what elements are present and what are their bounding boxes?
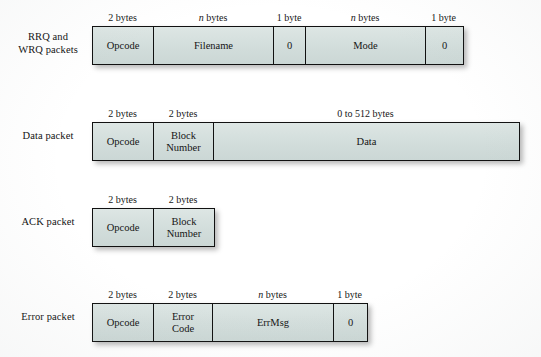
caption-suffix: bytes [174,108,198,119]
field-label-error-packet-error-code: Error Code [170,311,196,334]
size-caption-error-packet-zero-terminator: 1 byte [333,289,366,301]
size-caption-data-packet-opcode: 2 bytes [92,108,153,120]
caption-suffix: bytes [113,194,137,205]
caption-suffix: byte [342,289,362,300]
field-label-error-packet-errmsg: ErrMsg [255,317,291,329]
field-data-packet-opcode: Opcode [93,123,154,160]
size-caption-error-packet-error-code: 2 bytes [153,289,212,301]
field-rrq-wrq-packets-zero-terminator-1: 0 [274,27,306,64]
caption-suffix: bytes [113,12,137,23]
field-rrq-wrq-packets-mode: Mode [306,27,426,64]
field-label-ack-packet-block-number: Block Number [165,216,203,239]
field-label-data-packet-data: Data [355,136,379,148]
field-label-rrq-wrq-packets-zero-terminator-2: 0 [440,40,449,52]
caption-suffix: bytes [356,12,380,23]
field-error-packet-error-code: Error Code [154,304,213,341]
field-error-packet-zero-terminator: 0 [334,304,367,341]
field-ack-packet-opcode: Opcode [93,209,154,246]
size-caption-rrq-wrq-packets-zero-terminator-1: 1 byte [273,12,305,24]
size-caption-rrq-wrq-packets-opcode: 2 bytes [92,12,153,24]
field-error-packet-opcode: Opcode [93,304,154,341]
caption-prefix: 0 to 512 [337,108,370,119]
packet-fields-data-packet: OpcodeBlock NumberData [92,122,520,161]
size-caption-error-packet-opcode: 2 bytes [92,289,153,301]
field-error-packet-errmsg: ErrMsg [213,304,334,341]
size-caption-rrq-wrq-packets-filename: n bytes [153,12,273,24]
field-label-rrq-wrq-packets-opcode: Opcode [105,40,142,52]
caption-suffix: bytes [370,108,394,119]
size-caption-ack-packet-block-number: 2 bytes [153,194,213,206]
size-caption-error-packet-errmsg: n bytes [212,289,333,301]
size-caption-rrq-wrq-packets-zero-terminator-2: 1 byte [425,12,462,24]
field-label-data-packet-opcode: Opcode [105,136,142,148]
field-label-error-packet-zero-terminator: 0 [346,317,355,329]
caption-suffix: byte [282,12,302,23]
row-label-error-packet: Error packet [8,310,88,323]
field-label-rrq-wrq-packets-mode: Mode [351,40,380,52]
field-rrq-wrq-packets-filename: Filename [154,27,274,64]
row-label-data-packet: Data packet [8,129,88,142]
field-label-rrq-wrq-packets-filename: Filename [192,40,235,52]
packet-fields-ack-packet: OpcodeBlock Number [92,208,215,247]
caption-suffix: bytes [204,12,228,23]
caption-suffix: bytes [174,194,198,205]
size-caption-data-packet-block-number: 2 bytes [153,108,213,120]
row-label-rrq-wrq-packets: RRQ and WRQ packets [8,30,88,56]
size-caption-data-packet-data: 0 to 512 bytes [213,108,518,120]
field-label-error-packet-opcode: Opcode [105,317,142,329]
caption-suffix: bytes [263,289,287,300]
size-caption-rrq-wrq-packets-mode: n bytes [305,12,425,24]
field-rrq-wrq-packets-zero-terminator-2: 0 [426,27,463,64]
field-label-ack-packet-opcode: Opcode [105,222,142,234]
field-ack-packet-block-number: Block Number [154,209,214,246]
packet-fields-rrq-wrq-packets: OpcodeFilename0Mode0 [92,26,464,65]
caption-suffix: bytes [113,289,137,300]
size-caption-ack-packet-opcode: 2 bytes [92,194,153,206]
packet-fields-error-packet: OpcodeError CodeErrMsg0 [92,303,368,342]
field-label-data-packet-block-number: Block Number [164,130,202,153]
caption-suffix: bytes [173,289,197,300]
field-data-packet-data: Data [214,123,519,160]
field-data-packet-block-number: Block Number [154,123,214,160]
field-rrq-wrq-packets-opcode: Opcode [93,27,154,64]
row-label-ack-packet: ACK packet [8,215,88,228]
field-label-rrq-wrq-packets-zero-terminator-1: 0 [285,40,294,52]
caption-suffix: byte [436,12,456,23]
tftp-packet-format-diagram: RRQ and WRQ packetsOpcodeFilename0Mode02… [0,0,541,357]
caption-suffix: bytes [113,108,137,119]
